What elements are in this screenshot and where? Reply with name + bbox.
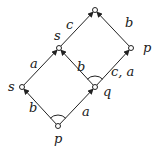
node-q (93, 85, 98, 90)
edge-label-q-s_mid: b (77, 59, 85, 74)
edge-label-s_left-s_mid: a (30, 56, 38, 71)
edge-label-p_bottom-s_left: b (29, 100, 37, 115)
edge-label-p_bottom-q: a (82, 104, 90, 119)
node-top (93, 8, 98, 13)
angle-arcs (50, 76, 103, 118)
node-s_left (20, 85, 25, 90)
node-label-s_left: s (8, 79, 15, 94)
edge-label-q-p_right: c, a (111, 64, 134, 79)
edge-label-s_mid-top: c (66, 17, 74, 32)
node-p_right (129, 46, 134, 51)
node-label-s_mid: s (54, 28, 61, 43)
edge-label-p_right-top: b (125, 15, 133, 30)
arc-bottom (50, 115, 66, 118)
arc-q (87, 76, 103, 79)
diagram-canvas: spsqpbaabc, acb (0, 0, 157, 148)
labels: spsqpbaabc, acb (8, 15, 152, 146)
node-label-q: q (103, 84, 111, 99)
edge-s_left-s_mid (24, 50, 57, 85)
node-p_bottom (56, 124, 61, 129)
node-label-p_bottom: p (54, 131, 63, 146)
node-s_mid (57, 46, 62, 51)
node-label-p_right: p (143, 40, 152, 55)
